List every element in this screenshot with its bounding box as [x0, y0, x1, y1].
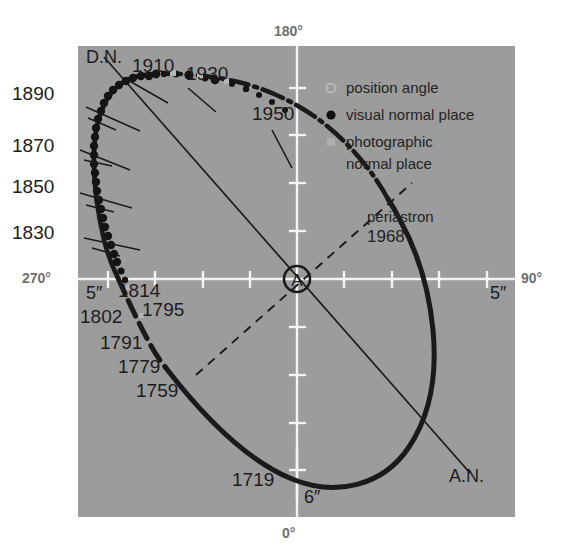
primary-star-label: A — [291, 271, 303, 290]
descending-node-label: D.N. — [86, 48, 122, 66]
legend-label-photographic: photographic — [346, 134, 433, 149]
ascending-node-label: A.N. — [449, 467, 484, 485]
year-label-1950: 1950 — [252, 104, 294, 123]
orbit-diagram: A 180° 90° 0° 270° 5″ 5″ 6″ D.N. A.N. pe… — [0, 0, 567, 559]
year-label-1779: 1779 — [118, 357, 160, 376]
year-label-1759: 1759 — [136, 381, 178, 400]
year-label-1814: 1814 — [118, 281, 160, 300]
axis-label-90: 90° — [521, 271, 542, 285]
periastron-year: 1968 — [367, 228, 405, 245]
legend-label-normal-place: normal place — [346, 156, 432, 171]
axis-label-270: 270° — [22, 271, 51, 285]
year-label-1791: 1791 — [100, 333, 142, 352]
legend-marker-visual-normal-place — [326, 110, 335, 119]
legend-marker-photographic-normal-place — [327, 138, 335, 146]
year-label-1719: 1719 — [232, 470, 274, 489]
legend-label-visual-normal-place: visual normal place — [346, 107, 474, 122]
year-label-1870: 1870 — [12, 136, 54, 155]
year-label-1910: 1910 — [132, 56, 174, 75]
year-label-1830: 1830 — [12, 223, 54, 242]
periastron-label: periastron — [367, 209, 434, 224]
scale-label-left-5arcsec: 5″ — [86, 284, 102, 302]
year-label-1930: 1930 — [186, 64, 228, 83]
legend-label-position-angle: position angle — [346, 80, 439, 95]
scale-label-bottom-6arcsec: 6″ — [304, 488, 320, 506]
year-label-1850: 1850 — [12, 177, 54, 196]
scale-label-right-5arcsec: 5″ — [490, 284, 506, 302]
year-label-1802: 1802 — [80, 307, 122, 326]
axis-label-180: 180° — [274, 24, 303, 38]
axis-label-0: 0° — [282, 526, 295, 540]
year-label-1890: 1890 — [12, 84, 54, 103]
year-label-1795: 1795 — [142, 300, 184, 319]
